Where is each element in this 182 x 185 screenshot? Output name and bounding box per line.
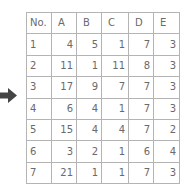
table-cell: 7	[129, 34, 154, 55]
table-cell: 2	[77, 141, 102, 162]
row-number-cell: 4	[27, 98, 52, 119]
table-cell: 1	[102, 34, 129, 55]
table-cell: 7	[129, 162, 154, 183]
table-cell: 4	[102, 119, 129, 140]
table-cell: 15	[52, 119, 77, 140]
table-cell: 4	[154, 141, 180, 162]
table-cell: 1	[77, 162, 102, 183]
table-body: No.ABCDE14517321111183317977346417351544…	[27, 13, 180, 184]
table-cell: 1	[77, 55, 102, 76]
row-number-cell: 5	[27, 119, 52, 140]
table-cell: 7	[129, 77, 154, 98]
table-cell: 1	[102, 162, 129, 183]
row-number-cell: 3	[27, 77, 52, 98]
table-row: 632164	[27, 141, 180, 162]
row-number-cell: 1	[27, 34, 52, 55]
column-header: A	[52, 13, 77, 34]
table-row: 145173	[27, 34, 180, 55]
table-row: 464173	[27, 98, 180, 119]
table-cell: 3	[154, 77, 180, 98]
table-cell: 21	[52, 162, 77, 183]
table-cell: 7	[102, 77, 129, 98]
table-cell: 2	[154, 119, 180, 140]
column-header: D	[129, 13, 154, 34]
table-cell: 6	[52, 98, 77, 119]
table-row: 3179773	[27, 77, 180, 98]
column-header: E	[154, 13, 180, 34]
table-cell: 3	[154, 162, 180, 183]
table-cell: 3	[52, 141, 77, 162]
data-table: No.ABCDE14517321111183317977346417351544…	[26, 12, 180, 184]
table-cell: 6	[129, 141, 154, 162]
table-cell: 17	[52, 77, 77, 98]
column-header: No.	[27, 13, 52, 34]
table-cell: 4	[77, 98, 102, 119]
column-header: C	[102, 13, 129, 34]
table-cell: 11	[102, 55, 129, 76]
table-row: 7211173	[27, 162, 180, 183]
table-cell: 7	[129, 98, 154, 119]
row-number-cell: 2	[27, 55, 52, 76]
table-cell: 7	[129, 119, 154, 140]
row-number-cell: 6	[27, 141, 52, 162]
table-cell: 1	[102, 141, 129, 162]
table-row: 5154472	[27, 119, 180, 140]
table-cell: 5	[77, 34, 102, 55]
table-cell: 1	[102, 98, 129, 119]
right-arrow-icon	[0, 88, 18, 103]
column-header: B	[77, 13, 102, 34]
table-cell: 3	[154, 98, 180, 119]
table-row: 21111183	[27, 55, 180, 76]
table-cell: 8	[129, 55, 154, 76]
row-number-cell: 7	[27, 162, 52, 183]
table-cell: 3	[154, 55, 180, 76]
table-header-row: No.ABCDE	[27, 13, 180, 34]
table-cell: 4	[77, 119, 102, 140]
table-cell: 11	[52, 55, 77, 76]
table-cell: 3	[154, 34, 180, 55]
table-cell: 9	[77, 77, 102, 98]
table-cell: 4	[52, 34, 77, 55]
